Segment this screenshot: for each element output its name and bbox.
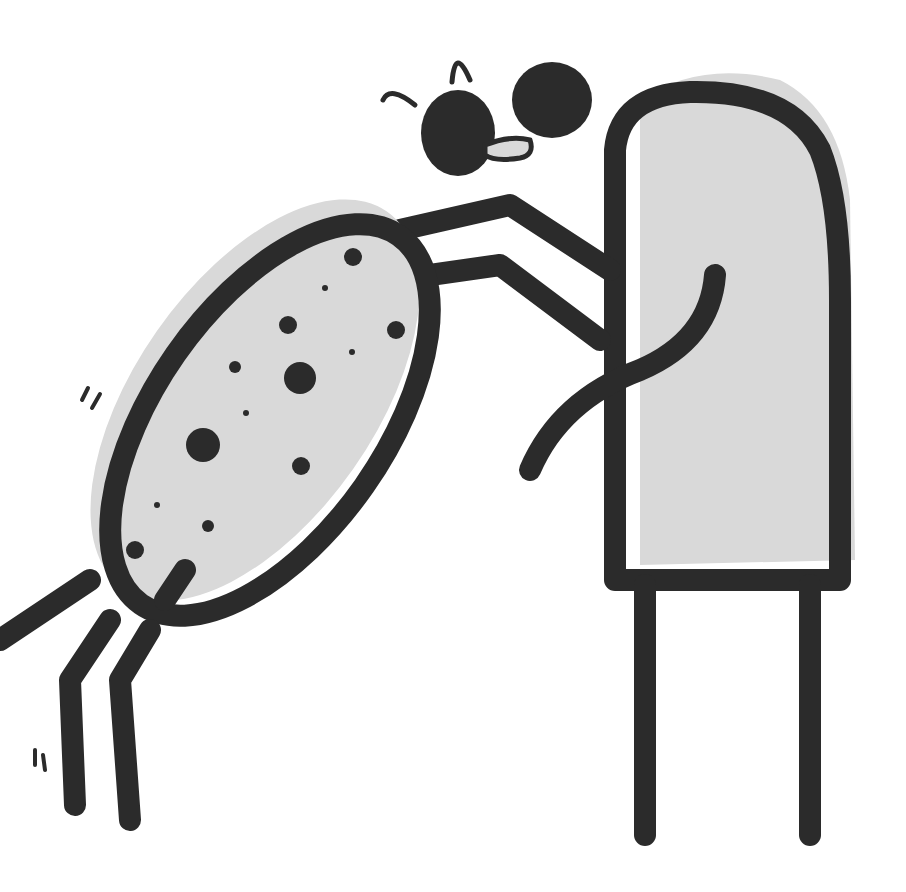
- tall-character: [530, 73, 855, 835]
- floating-heart: [383, 62, 592, 176]
- illustration: [0, 0, 906, 892]
- spotted-character: [0, 143, 493, 820]
